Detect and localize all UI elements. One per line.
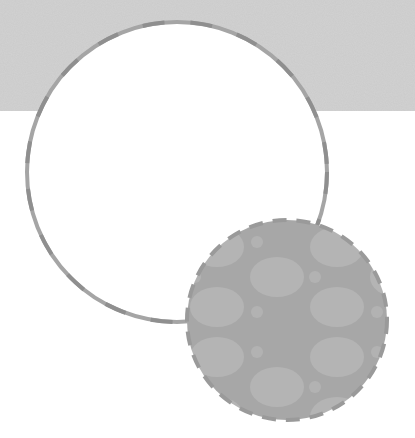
- decorative-circles-graphic: [0, 0, 415, 438]
- small-textured-circle: [187, 220, 387, 420]
